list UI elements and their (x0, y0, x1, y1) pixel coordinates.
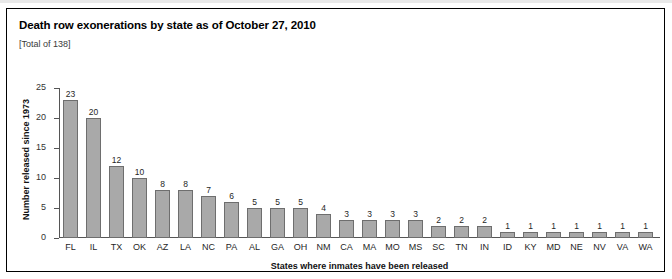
bar-value-label: 8 (151, 179, 174, 189)
bar-group: 1WA (634, 81, 657, 238)
y-axis-tick-label: 25 (36, 82, 46, 92)
bar[interactable] (408, 220, 423, 238)
bar[interactable] (615, 232, 630, 238)
bar-group: 12TX (105, 81, 128, 238)
figure-frame: Death row exonerations by state as of Oc… (6, 8, 665, 272)
bar-group: 4NM (312, 81, 335, 238)
y-axis-tick-label: 20 (36, 112, 46, 122)
bar-value-label: 1 (611, 221, 634, 231)
bar-value-label: 1 (542, 221, 565, 231)
bar[interactable] (63, 100, 78, 238)
y-axis-title: Number released since 1973 (19, 81, 33, 238)
bar[interactable] (477, 226, 492, 238)
bar-value-label: 3 (381, 209, 404, 219)
bar[interactable] (155, 190, 170, 238)
bar-group: 5GA (266, 81, 289, 238)
chart-title: Death row exonerations by state as of Oc… (19, 19, 316, 31)
bar-value-label: 2 (427, 215, 450, 225)
figure-page: Death row exonerations by state as of Oc… (0, 0, 672, 279)
bar[interactable] (86, 118, 101, 238)
bar[interactable] (431, 226, 446, 238)
bar-value-label: 1 (634, 221, 657, 231)
bar[interactable] (247, 208, 262, 238)
bar-group: 1NV (588, 81, 611, 238)
bar-value-label: 1 (588, 221, 611, 231)
plot-area: 0510152025 23FL20IL12TX10OK8AZ8LA7NC6PA5… (59, 81, 660, 238)
bar[interactable] (592, 232, 607, 238)
bar-value-label: 6 (220, 191, 243, 201)
bar[interactable] (132, 178, 147, 238)
bar-group: 5AL (243, 81, 266, 238)
bar-group: 1NE (565, 81, 588, 238)
x-axis-title: States where inmates have been released (59, 261, 660, 271)
bar-value-label: 20 (82, 107, 105, 117)
bar-group: 20IL (82, 81, 105, 238)
bar-group: 23FL (59, 81, 82, 238)
bar-group: 1VA (611, 81, 634, 238)
bar-group: 7NC (197, 81, 220, 238)
bar-group: 2TN (450, 81, 473, 238)
bar[interactable] (224, 202, 239, 238)
bar[interactable] (500, 232, 515, 238)
bar[interactable] (339, 220, 354, 238)
bar-value-label: 5 (243, 197, 266, 207)
bar-value-label: 5 (289, 197, 312, 207)
bar[interactable] (638, 232, 653, 238)
top-edge-artifact (0, 0, 672, 3)
bar-value-label: 12 (105, 155, 128, 165)
bar[interactable] (293, 208, 308, 238)
y-axis-tick-label: 0 (41, 232, 46, 242)
bar-group: 5OH (289, 81, 312, 238)
bar[interactable] (569, 232, 584, 238)
y-axis-tick-label: 15 (36, 142, 46, 152)
bar-group: 1ID (496, 81, 519, 238)
bar-group: 3MS (404, 81, 427, 238)
y-axis-tick-label: 5 (41, 202, 46, 212)
bar-value-label: 1 (496, 221, 519, 231)
bar-group: 10OK (128, 81, 151, 238)
x-axis-category-label: WA (632, 242, 659, 252)
bar-group: 3CA (335, 81, 358, 238)
bar-value-label: 7 (197, 185, 220, 195)
bar[interactable] (454, 226, 469, 238)
bar-value-label: 5 (266, 197, 289, 207)
bar-group: 2SC (427, 81, 450, 238)
bar-value-label: 10 (128, 167, 151, 177)
bar-value-label: 3 (404, 209, 427, 219)
bar[interactable] (178, 190, 193, 238)
bar-value-label: 23 (59, 89, 82, 99)
bar-value-label: 4 (312, 203, 335, 213)
bar-value-label: 1 (519, 221, 542, 231)
bar[interactable] (546, 232, 561, 238)
bar-value-label: 3 (358, 209, 381, 219)
bar-group: 3MO (381, 81, 404, 238)
bar-group: 6PA (220, 81, 243, 238)
bar-value-label: 2 (450, 215, 473, 225)
bar-group: 1KY (519, 81, 542, 238)
bar[interactable] (385, 220, 400, 238)
bar-group: 2IN (473, 81, 496, 238)
bar-group: 3MA (358, 81, 381, 238)
bar[interactable] (316, 214, 331, 238)
bars-layer: 23FL20IL12TX10OK8AZ8LA7NC6PA5AL5GA5OH4NM… (59, 81, 660, 238)
bar[interactable] (201, 196, 216, 238)
bar-group: 8AZ (151, 81, 174, 238)
bar[interactable] (523, 232, 538, 238)
chart-subtitle-total: [Total of 138] (19, 39, 71, 49)
bar-group: 8LA (174, 81, 197, 238)
bar-group: 1MD (542, 81, 565, 238)
bar-value-label: 8 (174, 179, 197, 189)
bar-value-label: 3 (335, 209, 358, 219)
bar-value-label: 2 (473, 215, 496, 225)
bar[interactable] (109, 166, 124, 238)
bar[interactable] (362, 220, 377, 238)
y-axis-tick-label: 10 (36, 172, 46, 182)
bar[interactable] (270, 208, 285, 238)
bar-value-label: 1 (565, 221, 588, 231)
